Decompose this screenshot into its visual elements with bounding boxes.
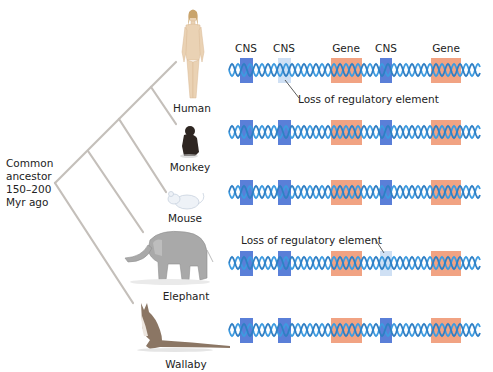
annotation-leader-lines [0, 0, 493, 372]
